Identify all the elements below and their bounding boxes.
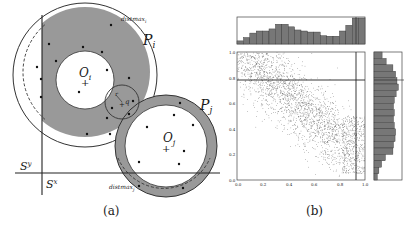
y-tick: 0.4	[229, 127, 236, 132]
q-label: q	[125, 98, 130, 106]
histogram-bar	[374, 116, 393, 122]
svg-text:Pj: Pj	[199, 97, 212, 115]
histogram-bar	[374, 90, 396, 96]
histogram-bar	[327, 36, 333, 44]
y-tick: 0.0	[229, 178, 236, 183]
histogram-bar	[288, 27, 294, 44]
histogram-bar	[295, 30, 301, 44]
histogram-bar	[374, 129, 396, 135]
histogram-bar	[374, 58, 386, 64]
histogram-bar	[320, 36, 326, 44]
y-tick: 0.6	[229, 101, 236, 106]
histogram-bar	[374, 52, 382, 58]
right-histogram-bars	[374, 52, 398, 180]
x-tick: 0.2	[260, 182, 267, 187]
x-tick: 1.0	[362, 182, 369, 187]
sx-superscript: x	[54, 178, 58, 186]
oi-label: O	[79, 66, 89, 80]
histogram-bar	[282, 24, 288, 44]
histogram-bar	[374, 110, 394, 116]
histogram-bar	[374, 167, 379, 173]
pi-label: P	[142, 32, 153, 48]
panel-b: 0.0 0.2 0.4 0.6 0.8 1.0 0.0 0.2 0.4 0.6 …	[229, 17, 404, 218]
y-tick: 1.0	[229, 50, 236, 55]
histogram-bar	[374, 174, 377, 180]
x-tick-labels: 0.0 0.2 0.4 0.6 0.8 1.0	[235, 182, 369, 187]
y-tick: 0.2	[229, 152, 236, 157]
x-tick: 0.4	[286, 182, 293, 187]
histogram-bar	[333, 36, 339, 44]
oj-label: O	[163, 131, 173, 145]
x-tick: 0.6	[311, 182, 318, 187]
histogram-bar	[374, 65, 393, 71]
histogram-bar	[374, 84, 398, 90]
histogram-bar	[275, 24, 281, 44]
histogram-bar	[250, 33, 256, 44]
histogram-bar	[301, 31, 307, 44]
pj-label: P	[199, 97, 210, 113]
distmax-i-subscript: i	[145, 19, 147, 24]
sy-superscript: y	[27, 160, 33, 168]
distmax-j-subscript: j	[132, 187, 135, 192]
histogram-bar	[269, 29, 275, 44]
histogram-bar	[374, 135, 395, 141]
x-tick: 0.0	[235, 182, 242, 187]
y-tick-labels: 0.0 0.2 0.4 0.6 0.8 1.0	[229, 50, 236, 183]
svg-text:Pi: Pi	[142, 32, 155, 50]
histogram-bar	[374, 154, 385, 160]
histogram-bar	[352, 18, 358, 44]
distmax-j-label: distmax	[109, 183, 134, 190]
histogram-bar	[359, 18, 365, 44]
histogram-bar	[237, 41, 243, 44]
histogram-bar	[346, 25, 352, 44]
histogram-bar	[263, 31, 269, 44]
pi-subscript: i	[152, 40, 155, 50]
histogram-bar	[256, 31, 262, 44]
histogram-bar	[374, 97, 394, 103]
histogram-bar	[374, 78, 397, 84]
y-tick: 0.8	[229, 76, 236, 81]
histogram-bar	[374, 161, 382, 167]
histogram-bar	[374, 71, 396, 77]
svg-text:Sx: Sx	[46, 178, 58, 191]
histogram-bar	[314, 32, 320, 44]
x-tick: 0.8	[337, 182, 344, 187]
oi-subscript: i	[89, 73, 92, 82]
svg-text:Sy: Sy	[20, 160, 33, 173]
caption-a: (a)	[103, 204, 120, 218]
histogram-bar	[374, 122, 394, 128]
histogram-bar	[374, 142, 393, 148]
histogram-bar	[374, 148, 393, 154]
top-histogram-bars	[237, 18, 365, 44]
histogram-bar	[307, 32, 313, 44]
panel-a: + + + Pi Pj Oi Oj Sy Sx distmaxi distmax…	[13, 3, 220, 218]
svg-text:distmaxj: distmaxj	[109, 183, 135, 192]
figure-canvas: + + + Pi Pj Oi Oj Sy Sx distmaxi distmax…	[0, 0, 414, 225]
caption-b: (b)	[306, 204, 323, 218]
distmax-i-label: distmax	[121, 15, 146, 22]
histogram-bar	[243, 38, 249, 45]
histogram-bar	[339, 31, 345, 44]
histogram-bar	[374, 103, 393, 109]
